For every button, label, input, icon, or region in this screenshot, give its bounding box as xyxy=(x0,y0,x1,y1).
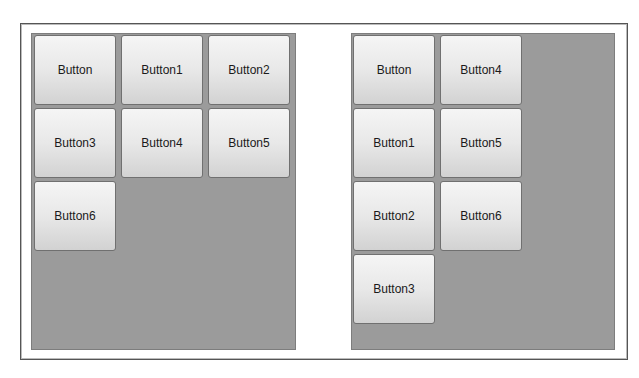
left-button-4[interactable]: Button4 xyxy=(121,108,203,178)
right-button-3[interactable]: Button3 xyxy=(353,254,435,324)
left-button-2[interactable]: Button2 xyxy=(208,35,290,105)
wrap-panel-horizontal: Button Button1 Button2 Button3 Button4 B… xyxy=(31,33,296,350)
right-button-4[interactable]: Button4 xyxy=(440,35,522,105)
right-button-5[interactable]: Button5 xyxy=(440,108,522,178)
left-button-1[interactable]: Button1 xyxy=(121,35,203,105)
right-button-0[interactable]: Button xyxy=(353,35,435,105)
left-button-3[interactable]: Button3 xyxy=(34,108,116,178)
left-button-6[interactable]: Button6 xyxy=(34,181,116,251)
right-button-2[interactable]: Button2 xyxy=(353,181,435,251)
left-button-0[interactable]: Button xyxy=(34,35,116,105)
right-button-6[interactable]: Button6 xyxy=(440,181,522,251)
left-button-5[interactable]: Button5 xyxy=(208,108,290,178)
wrap-panel-vertical: Button Button1 Button2 Button3 Button4 B… xyxy=(351,33,615,350)
right-button-1[interactable]: Button1 xyxy=(353,108,435,178)
